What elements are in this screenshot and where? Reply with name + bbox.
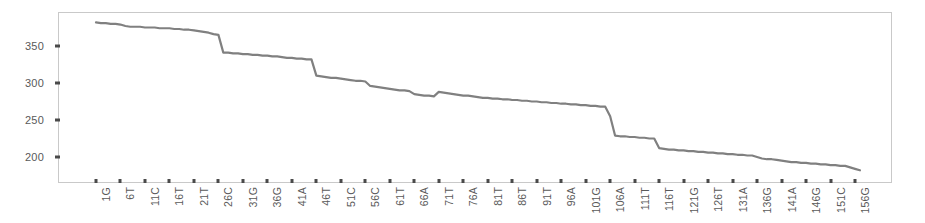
x-tick-label: 21T — [198, 187, 210, 206]
y-tick-mark — [55, 45, 60, 48]
x-tick-label: 111T — [639, 187, 651, 210]
x-tick-mark — [658, 179, 661, 183]
x-tick-label: 141A — [786, 187, 798, 212]
x-tick-label: 126T — [712, 187, 724, 212]
x-tick-label: 81T — [492, 187, 504, 206]
x-tick-label: 116T — [663, 187, 675, 211]
x-tick-label: 31G — [247, 187, 259, 207]
x-tick-label: 146G — [810, 187, 822, 214]
x-tick-mark — [462, 179, 465, 183]
x-tick-label: 121G — [688, 187, 700, 214]
x-tick-label: 151C — [835, 187, 847, 213]
x-tick-label: 96A — [565, 187, 577, 206]
x-tick-mark — [95, 179, 98, 183]
x-tick-mark — [584, 179, 587, 183]
y-axis: 350300250200 — [0, 0, 58, 183]
x-tick-label: 1G — [100, 187, 112, 201]
x-tick-mark — [682, 179, 685, 183]
plot-area-frame — [58, 12, 892, 183]
x-tick-label: 76A — [467, 187, 479, 206]
y-tick-label: 200 — [25, 151, 44, 163]
x-tick-mark — [217, 179, 220, 183]
x-tick-mark — [805, 179, 808, 183]
x-tick-label: 66A — [418, 187, 430, 206]
x-axis: 1G6T11C16T21T26C31G36G41A46T51C56C61T66A… — [0, 183, 925, 223]
x-tick-label: 56C — [369, 187, 381, 207]
x-tick-mark — [241, 179, 244, 183]
x-tick-label: 41A — [296, 187, 308, 206]
x-tick-mark — [731, 179, 734, 183]
x-tick-label: 51C — [345, 187, 357, 207]
chart-figure: 350300250200 1G6T11C16T21T26C31G36G41A46… — [0, 0, 925, 223]
x-tick-label: 131A — [737, 187, 749, 212]
x-tick-label: 26C — [222, 187, 234, 207]
x-tick-mark — [119, 179, 122, 183]
x-tick-mark — [168, 179, 171, 183]
x-tick-mark — [486, 179, 489, 183]
x-tick-label: 16T — [173, 187, 185, 206]
x-tick-mark — [339, 179, 342, 183]
y-tick-label: 300 — [25, 77, 44, 89]
x-tick-mark — [290, 179, 293, 183]
x-tick-mark — [633, 179, 636, 183]
x-tick-label: 46T — [320, 187, 332, 206]
x-tick-mark — [388, 179, 391, 183]
x-tick-mark — [609, 179, 612, 183]
x-tick-label: 86T — [516, 187, 528, 206]
x-tick-mark — [413, 179, 416, 183]
x-tick-mark — [780, 179, 783, 183]
y-tick-mark — [55, 82, 60, 85]
x-tick-mark — [266, 179, 269, 183]
x-tick-label: 11C — [149, 187, 161, 206]
x-tick-label: 156G — [859, 187, 871, 214]
x-tick-label: 36G — [271, 187, 283, 207]
x-tick-mark — [315, 179, 318, 183]
x-tick-label: 91T — [541, 187, 553, 206]
y-tick-label: 250 — [25, 114, 44, 126]
x-tick-mark — [192, 179, 195, 183]
x-tick-mark — [535, 179, 538, 183]
x-tick-label: 71T — [443, 187, 455, 206]
x-tick-label: 6T — [124, 187, 136, 200]
x-tick-mark — [756, 179, 759, 183]
x-tick-mark — [707, 179, 710, 183]
x-tick-mark — [511, 179, 514, 183]
x-tick-mark — [143, 179, 146, 183]
x-tick-mark — [829, 179, 832, 183]
x-tick-label: 106A — [614, 187, 626, 212]
x-tick-label: 61T — [394, 187, 406, 206]
x-tick-mark — [560, 179, 563, 183]
y-tick-mark — [55, 119, 60, 122]
x-tick-label: 101G — [590, 187, 602, 214]
x-tick-label: 136G — [761, 187, 773, 214]
x-tick-mark — [437, 179, 440, 183]
y-tick-mark — [55, 156, 60, 159]
x-tick-mark — [854, 179, 857, 183]
x-tick-mark — [364, 179, 367, 183]
y-tick-label: 350 — [25, 40, 44, 52]
